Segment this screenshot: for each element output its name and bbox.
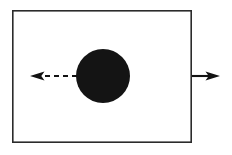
filled-black-circle [76, 49, 130, 103]
right-arrow [192, 72, 220, 81]
diagram-svg [0, 0, 232, 155]
figure-canvas [0, 0, 232, 155]
left-arrow [30, 72, 77, 81]
left-arrow-head-icon [30, 72, 45, 81]
